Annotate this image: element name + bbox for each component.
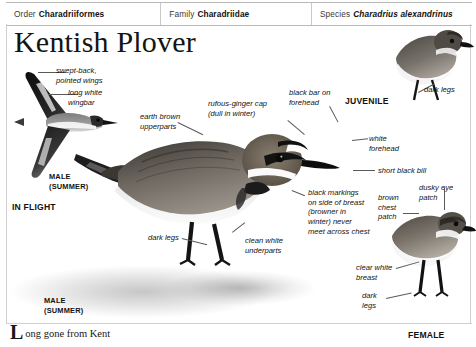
annotation-dark-legs-main: dark legs [148,233,179,243]
annotation-dusky-eye-patch: dusky eye patch [419,183,453,202]
taxonomy-cell-order: Order Charadriiformes [6,3,160,25]
taxonomy-value-order: Charadriiformes [39,9,105,19]
caption-juvenile: JUVENILE [345,96,389,107]
body-text-first-line: Long gone from Kent [10,328,110,339]
body-text: ong gone from Kent [25,328,110,339]
annotation-earth-brown-upperparts: earth brown upperparts [140,112,180,131]
annotation-brown-chest-patch: brown chest patch [378,193,399,222]
annotation-clear-white-breast: clear white breast [356,263,392,282]
annotation-rufous-ginger-cap: rufous-ginger cap (dull in winter) [208,99,267,118]
leader-line-brown-chest-patch [403,213,419,214]
taxonomy-value-family: Charadriidae [197,9,249,19]
annotation-dark-legs-juvenile: dark legs [424,85,455,95]
taxonomy-cell-family: Family Charadriidae [160,3,311,25]
taxonomy-label-species: Species [320,9,350,19]
annotation-black-bar-on-forehead: black bar on forehead [289,88,330,107]
annotation-long-white-wingbar: long white wingbar [68,88,102,107]
annotation-clean-white-underparts: clean white underparts [245,236,283,255]
caption-male-summer-main: MALE (SUMMER) [44,296,83,315]
field-guide-page: Order Charadriiformes Family Charadriida… [0,0,476,347]
annotation-swept-back-pointed-wings: swept-back, pointed wings [56,66,102,85]
annotation-black-markings-breast: black markings on side of breast (browne… [308,188,370,237]
page-title: Kentish Plover [14,27,196,57]
drop-cap: L [10,328,23,336]
caption-female: FEMALE [408,330,445,341]
taxonomy-label-family: Family [169,9,194,19]
annotation-short-black-bill: short black bill [378,166,426,176]
caption-male-summer-in-flight: MALE (SUMMER) [49,172,88,191]
annotation-dark-legs-female: dark legs [362,291,377,310]
female-plover-photo [390,206,476,298]
taxonomy-value-species: Charadrius alexandrinus [353,9,453,19]
bottom-margin-rule [6,323,472,324]
leader-line-short-black-bill [353,170,375,171]
annotation-white-forehead: white forehead [369,134,399,153]
leader-line-white-forehead [352,138,368,141]
caption-in-flight: IN FLIGHT [12,202,56,213]
taxonomy-label-order: Order [14,9,36,19]
